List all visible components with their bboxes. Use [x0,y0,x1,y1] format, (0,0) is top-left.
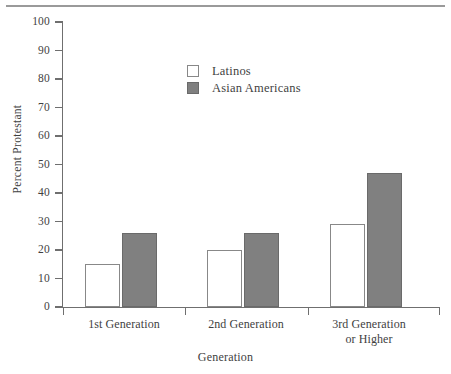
x-tick-mark [185,307,186,315]
y-tick-label: 80 [20,73,50,85]
legend-label-latinos: Latinos [212,63,251,79]
y-tick-label: 50 [20,159,50,171]
y-tick-mark [55,50,63,51]
y-tick-label: 100 [20,16,50,28]
y-tick-label: 30 [20,216,50,228]
y-tick-label: 70 [20,102,50,114]
y-tick-mark [55,164,63,165]
x-category-label-1: 1st Generation [63,317,185,332]
bar-chart-figure: 0102030405060708090100 1st Generation2nd… [0,0,451,374]
bar-latinos-group-1 [85,264,120,307]
y-tick-mark [55,192,63,193]
y-tick-mark [55,135,63,136]
top-horizontal-rule [6,5,445,7]
legend-swatch-latinos-icon [187,65,199,77]
y-tick-label: 10 [20,273,50,285]
bar-asian-americans-group-3 [367,173,402,307]
y-tick-label: 0 [20,301,50,313]
y-tick-label: 40 [20,187,50,199]
x-category-label-2: 2nd Generation [185,317,307,332]
y-axis-title: Percent Protestant [11,89,23,209]
y-tick-label: 60 [20,130,50,142]
bar-asian-americans-group-2 [244,233,279,307]
x-tick-mark [63,307,64,315]
bar-asian-americans-group-1 [122,233,157,307]
y-tick-mark [55,21,63,22]
x-tick-mark [439,307,440,315]
y-tick-mark [55,221,63,222]
y-tick-mark [55,78,63,79]
y-tick-label: 20 [20,244,50,256]
y-tick-mark [55,249,63,250]
x-category-label-3: 3rd Generationor Higher [308,317,430,346]
y-tick-label: 90 [20,45,50,57]
y-tick-mark [55,107,63,108]
legend-swatch-asian-americans-icon [187,82,199,94]
bar-latinos-group-2 [207,250,242,307]
y-tick-mark [55,278,63,279]
legend-label-asian-americans: Asian Americans [212,80,301,96]
x-axis-title: Generation [0,350,451,365]
x-tick-mark [308,307,309,315]
bar-latinos-group-3 [330,224,365,307]
